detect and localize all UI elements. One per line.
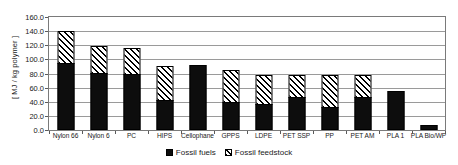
bar-group [412, 17, 445, 130]
bar-segment-fossil-fuels [288, 97, 305, 130]
bar-segment-fossil-feedstock [222, 70, 239, 102]
bar-segment-fossil-fuels [420, 125, 437, 130]
bar-segment-fossil-feedstock [57, 31, 74, 64]
x-axis-tick-label: Nylon 66 [53, 132, 79, 139]
bar-group [82, 17, 115, 130]
bar-stack [189, 65, 206, 130]
bar-segment-fossil-fuels [321, 107, 338, 130]
y-axis-tick-label: 80.0 [0, 69, 48, 78]
legend-label-fossil-fuels: Fossil fuels [176, 148, 216, 157]
bar-group [181, 17, 214, 130]
bars-layer [49, 17, 445, 130]
bar-segment-fossil-feedstock [255, 75, 272, 105]
y-axis-title: [ MJ / kg polymer ] [10, 8, 19, 128]
bar-segment-fossil-fuels [189, 65, 206, 130]
bar-stack [90, 46, 107, 130]
bar-group [49, 17, 82, 130]
bar-stack [123, 48, 140, 130]
x-axis-tick-mark [379, 131, 380, 134]
bar-stack [387, 91, 404, 130]
x-axis-tick-mark [280, 131, 281, 134]
bar-segment-fossil-fuels [90, 73, 107, 130]
bar-segment-fossil-feedstock [90, 46, 107, 74]
bar-segment-fossil-fuels [354, 97, 371, 130]
bar-segment-fossil-fuels [255, 104, 272, 130]
y-axis-tick-label: 60.0 [0, 83, 48, 92]
y-axis-tick-label: 120.0 [0, 41, 48, 50]
chart-legend: Fossil fuels Fossil feedstock [0, 148, 458, 157]
x-axis-tick-mark [82, 131, 83, 134]
bar-segment-fossil-fuels [156, 100, 173, 130]
bar-group [280, 17, 313, 130]
bar-segment-fossil-feedstock [288, 75, 305, 98]
legend-label-fossil-feedstock: Fossil feedstock [235, 148, 292, 157]
x-axis-tick-label: Nylon 6 [87, 132, 109, 139]
legend-item-fossil-fuels: Fossil fuels [166, 148, 216, 157]
y-axis-tick-label: 0.0 [0, 126, 48, 135]
bar-stack [354, 75, 371, 130]
x-axis-labels: Nylon 66Nylon 6PCHIPSCellophaneGPPSLDPEP… [49, 132, 445, 146]
bar-stack [288, 75, 305, 130]
x-axis-tick-label: PLA 1 [387, 132, 404, 139]
y-axis-tick-label: 40.0 [0, 97, 48, 106]
bar-stack [255, 75, 272, 130]
legend-swatch-fossil-feedstock-icon [225, 149, 232, 156]
x-axis-tick-label: LDPE [255, 132, 272, 139]
bar-group [247, 17, 280, 130]
x-axis-tick-label: PLA Bio/WP [411, 132, 446, 139]
bar-group [346, 17, 379, 130]
bar-group [379, 17, 412, 130]
x-axis-tick-mark [148, 131, 149, 134]
x-axis-tick-label: PP [325, 132, 334, 139]
y-axis-tick-label: 160.0 [0, 13, 48, 22]
legend-swatch-fossil-fuels-icon [166, 149, 173, 156]
bar-segment-fossil-feedstock [354, 75, 371, 98]
x-axis-tick-label: HIPS [157, 132, 172, 139]
bar-group [148, 17, 181, 130]
bar-stack [222, 70, 239, 130]
bar-stack [420, 125, 437, 130]
x-axis-tick-mark [412, 131, 413, 134]
y-axis-tick-label: 20.0 [0, 111, 48, 120]
y-axis-tick-label: 140.0 [0, 27, 48, 36]
bar-segment-fossil-fuels [387, 91, 404, 130]
x-axis-tick-mark [214, 131, 215, 134]
x-axis-tick-label: Cellophane [181, 132, 214, 139]
legend-item-fossil-feedstock: Fossil feedstock [225, 148, 292, 157]
x-axis-tick-mark [313, 131, 314, 134]
x-axis-tick-mark [247, 131, 248, 134]
x-axis-tick-label: PC [127, 132, 136, 139]
bar-segment-fossil-fuels [222, 102, 239, 130]
bar-segment-fossil-feedstock [156, 66, 173, 101]
x-axis-tick-mark [445, 131, 446, 134]
bar-stack [156, 66, 173, 130]
x-axis-tick-label: PET AM [351, 132, 375, 139]
stacked-bar-chart: [ MJ / kg polymer ] 0.020.040.060.080.01… [0, 0, 458, 165]
x-axis-tick-mark [346, 131, 347, 134]
x-axis-tick-mark [115, 131, 116, 134]
bar-segment-fossil-feedstock [321, 75, 338, 107]
bar-segment-fossil-fuels [123, 74, 140, 130]
x-axis-tick-label: PET SSP [283, 132, 310, 139]
bar-group [115, 17, 148, 130]
bar-stack [321, 75, 338, 130]
y-axis-tick-label: 100.0 [0, 55, 48, 64]
x-axis-tick-label: GPPS [221, 132, 239, 139]
bar-group [214, 17, 247, 130]
bar-stack [57, 31, 74, 130]
x-axis-tick-mark [49, 131, 50, 134]
bar-segment-fossil-feedstock [123, 48, 140, 75]
bar-group [313, 17, 346, 130]
x-axis-tick-mark [181, 131, 182, 134]
bar-segment-fossil-fuels [57, 63, 74, 130]
